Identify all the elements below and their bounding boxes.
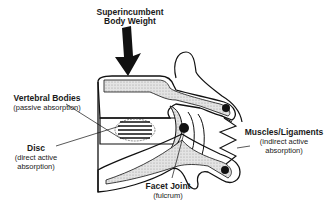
label-disc: Disc (direct active absorption): [4, 144, 68, 171]
upper-muscle-attachment: [222, 104, 230, 112]
load-arrow-icon: [115, 26, 141, 76]
disc: [100, 118, 178, 144]
label-muscles-ligaments: Muscles/Ligaments (indirect active absor…: [242, 128, 326, 155]
label-superincumbent-body-weight: Superincumbent Body Weight: [84, 8, 176, 26]
lower-vertebra-stipple: [106, 140, 231, 184]
leader-disc: [56, 126, 120, 146]
label-vertebral-bodies: Vertebral Bodies (passive absorption): [2, 94, 92, 112]
facet-joint-fulcrum: [179, 123, 189, 133]
label-facet-joint: Facet Joint (fulcrum): [128, 182, 208, 200]
lower-muscle-attachment: [221, 166, 229, 174]
